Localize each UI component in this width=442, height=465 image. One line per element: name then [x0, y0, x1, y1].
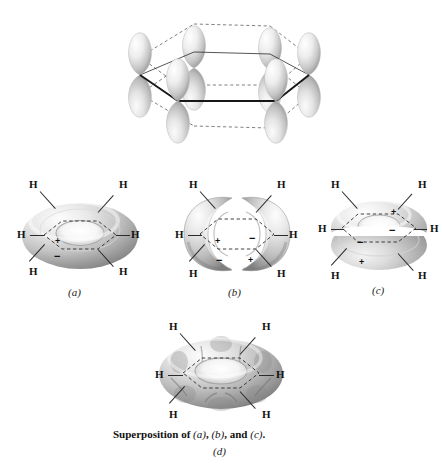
panel-c-sign-minus-lower-left: − [357, 238, 363, 247]
panel-a-caption: (a) [68, 286, 81, 298]
panel-c-h-label-bottom-right: H [418, 270, 427, 281]
panel-a-h-label-left: H [17, 229, 26, 240]
superposition-prefix: Superposition of [113, 428, 193, 440]
panel-a-sign-minus: − [54, 252, 60, 261]
panel-c-caption: (c) [372, 284, 384, 296]
panel-c-bond-3 [331, 229, 344, 230]
panel-d-h-label-top-right: H [262, 321, 271, 332]
panel-b-h-label-right: H [289, 229, 298, 240]
panel-d-orbital [155, 328, 287, 420]
panel-a-h-label-top-right: H [119, 179, 128, 190]
panel-a-h-label-bottom-right: H [119, 266, 128, 277]
panel-b-hexagon-outline [200, 219, 274, 249]
superposition-ref-c: (c) [250, 428, 262, 440]
panel-b-bond-3 [188, 235, 202, 236]
panel-b-sign-plus-left: + [215, 237, 220, 246]
panel-b-sign-minus-bottom-left: − [216, 256, 222, 265]
panel-c-h-label-top-right: H [418, 179, 427, 190]
panel-c-sign-minus-upper-front: − [389, 226, 395, 235]
panel-a-h-label-top-left: H [29, 179, 38, 190]
panel-b-h-label-top-right: H [277, 179, 286, 190]
panel-a-bond-3 [30, 235, 44, 236]
panel-c-sign-plus-lower-bottom: + [359, 258, 364, 267]
panel-d-caption: (d) [213, 445, 226, 457]
panel-a-bond-4 [116, 235, 130, 236]
panel-c-h-label-bottom-left: H [331, 270, 340, 281]
panel-d-h-label-bottom-right: H [262, 409, 271, 420]
panel-b-h-label-bottom-right: H [277, 268, 286, 279]
panel-c-sign-plus-upper-right: + [391, 208, 396, 217]
panel-c-h-label-top-left: H [331, 179, 340, 190]
superposition-sep-2: , and [224, 428, 250, 440]
panel-c-h-label-left: H [318, 223, 327, 234]
panel-b-h-label-top-left: H [189, 179, 198, 190]
p-orbitals-hexagon-diagram [118, 2, 328, 152]
superposition-caption: Superposition of (a), (b), and (c). [113, 428, 265, 440]
panel-b-h-label-left: H [175, 229, 184, 240]
panel-c-h-label-right: H [430, 223, 439, 234]
panel-a-h-label-right: H [131, 229, 140, 240]
panel-d-bond-3 [168, 375, 183, 376]
panel-d-h-label-bottom-left: H [169, 409, 178, 420]
figure-canvas: H H H H H H + − (a) [0, 0, 442, 465]
panel-b-sign-minus-right: − [249, 234, 255, 243]
panel-d-h-label-right: H [276, 369, 285, 380]
panel-b-h-label-bottom-left: H [189, 268, 198, 279]
panel-d-h-label-top-left: H [169, 321, 178, 332]
panel-b-bond-4 [274, 235, 288, 236]
superposition-ref-a: (a) [193, 428, 206, 440]
superposition-ref-b: (b) [211, 428, 224, 440]
panel-c-orbital [322, 188, 436, 280]
panel-b-caption: (b) [228, 286, 241, 298]
panel-a-sign-plus: + [55, 237, 60, 246]
panel-d-h-label-left: H [155, 369, 164, 380]
panel-c-bond-4 [414, 229, 427, 230]
panel-b-sign-plus-bottom-right: + [248, 256, 253, 265]
superposition-period: . [262, 428, 265, 440]
panel-d-bond-4 [259, 375, 274, 376]
panel-a-h-label-bottom-left: H [29, 266, 38, 277]
